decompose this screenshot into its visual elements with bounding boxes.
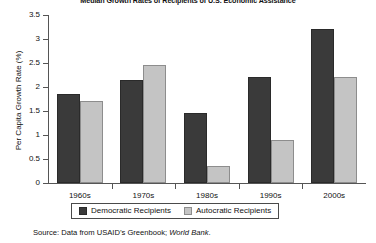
y-tick: 1 — [43, 135, 48, 136]
legend-label-autocratic: Autocratic Recipients — [196, 206, 271, 215]
plot-area: 00.511.522.533.5 1960s1970s1980s1990s200… — [48, 15, 366, 183]
y-tick: 2.5 — [43, 63, 48, 64]
chart-title: Median Growth Rates of Recipients of U.S… — [0, 0, 376, 5]
legend-swatch-autocratic — [184, 207, 192, 215]
y-tick-label: 3.5 — [29, 10, 40, 19]
x-tick — [175, 184, 176, 189]
y-tick: 0 — [43, 183, 48, 184]
y-tick-label: 2 — [36, 82, 40, 91]
bar — [184, 113, 207, 183]
y-tick: 1.5 — [43, 111, 48, 112]
bar — [120, 80, 143, 183]
bar — [334, 77, 357, 183]
y-tick-label: 3 — [36, 34, 40, 43]
x-tick — [302, 184, 303, 189]
bar — [80, 101, 103, 183]
x-axis-line — [48, 183, 366, 184]
y-axis-title: Per Capita Growth Rate (%) — [14, 31, 23, 171]
y-axis-line — [48, 15, 49, 184]
x-axis-label: 1990s — [260, 191, 282, 200]
x-tick — [239, 184, 240, 189]
source-note: Source: Data from USAID’s Greenbook; Wor… — [33, 228, 211, 237]
bar — [143, 65, 166, 183]
x-axis-label: 1980s — [196, 191, 218, 200]
legend-item-autocratic: Autocratic Recipients — [184, 206, 271, 215]
x-tick — [112, 184, 113, 189]
x-axis-label: 2000s — [323, 191, 345, 200]
y-tick: 0.5 — [43, 159, 48, 160]
bar — [248, 77, 271, 183]
bar — [271, 140, 294, 183]
source-prefix: Source: Data from USAID’s Greenbook; — [33, 228, 169, 237]
chart-legend: Democratic Recipients Autocratic Recipie… — [71, 203, 279, 219]
x-axis-label: 1960s — [69, 191, 91, 200]
legend-swatch-democratic — [79, 207, 87, 215]
legend-item-democratic: Democratic Recipients — [79, 206, 171, 215]
bar — [311, 29, 334, 183]
y-tick-label: 0 — [36, 178, 40, 187]
y-tick: 3 — [43, 39, 48, 40]
y-tick-label: 1 — [36, 130, 40, 139]
x-axis-label: 1970s — [132, 191, 154, 200]
source-suffix: . — [208, 228, 210, 237]
y-tick-label: 0.5 — [29, 154, 40, 163]
y-tick-label: 2.5 — [29, 58, 40, 67]
y-tick: 2 — [43, 87, 48, 88]
chart-figure: Median Growth Rates of Recipients of U.S… — [0, 0, 376, 243]
source-italic: World Bank — [169, 228, 208, 237]
legend-label-democratic: Democratic Recipients — [91, 206, 171, 215]
bar — [57, 94, 80, 183]
y-tick: 3.5 — [43, 15, 48, 16]
bar — [207, 166, 230, 183]
y-tick-label: 1.5 — [29, 106, 40, 115]
